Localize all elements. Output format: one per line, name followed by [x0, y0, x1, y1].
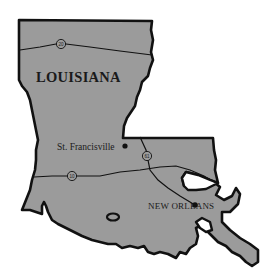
city-dot-new-orleans: [192, 202, 198, 208]
city-label-st-francisville: St. Francisville: [57, 142, 115, 152]
shield-i10-label: 10: [69, 174, 75, 179]
city-label-new-orleans: NEW ORLEANS: [148, 201, 214, 211]
shield-i20: 20: [56, 39, 65, 48]
city-dot-st-francisville: [122, 143, 127, 148]
louisiana-map: 20 61 10 LOUISIANA St. Francisville NEW …: [0, 0, 271, 279]
state-outline: [19, 20, 258, 266]
shield-us61-label: 61: [144, 154, 150, 159]
island: [107, 214, 119, 221]
shield-i10: 10: [67, 171, 76, 180]
shield-us61: 61: [142, 151, 151, 160]
state-title: LOUISIANA: [36, 69, 121, 85]
shield-i20-label: 20: [58, 42, 64, 47]
map-svg: 20 61 10 LOUISIANA St. Francisville NEW …: [0, 0, 271, 279]
